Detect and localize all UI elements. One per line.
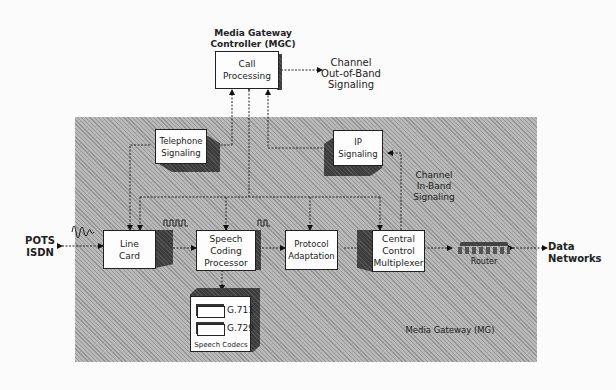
speech-codecs-box: G.711 G.729 Speech Codecs bbox=[190, 296, 251, 352]
in-band-label-1: Channel bbox=[404, 170, 464, 181]
line-card-label: Line Card bbox=[115, 238, 145, 262]
in-band-label-2: In-Band bbox=[404, 181, 464, 192]
central-control-label: Central Control Multiplexer bbox=[373, 233, 424, 269]
line-card-shadow bbox=[155, 230, 173, 268]
router-label: Router bbox=[458, 256, 510, 267]
ip-signaling-label: IP Signaling bbox=[338, 136, 378, 160]
codec-chip-icon bbox=[197, 306, 225, 318]
data-networks-label-2: Networks bbox=[548, 253, 608, 265]
media-gateway-label: Media Gateway (MG) bbox=[395, 325, 505, 336]
out-of-band-label-1: Channel bbox=[316, 57, 386, 68]
speech-coding-box: Speech Coding Processor bbox=[196, 230, 256, 271]
codec-chip-icon bbox=[197, 324, 225, 336]
call-processing-box: Call Processing bbox=[215, 51, 279, 89]
router-icon bbox=[458, 242, 510, 256]
line-card-box: Line Card bbox=[103, 230, 156, 269]
central-control-box: Central Control Multiplexer bbox=[372, 230, 425, 272]
protocol-adaptation-box: Protocol Adaptation bbox=[285, 230, 338, 270]
pots-label: POTS bbox=[18, 235, 62, 247]
central-control-shadow bbox=[357, 230, 373, 272]
out-of-band-label-2: Out-of-Band bbox=[316, 68, 386, 79]
speech-codecs-label: Speech Codecs bbox=[192, 339, 250, 351]
isdn-label: ISDN bbox=[18, 247, 62, 259]
out-of-band-label-3: Signaling bbox=[316, 79, 386, 90]
mgc-title-line2: Controller (MGC) bbox=[208, 38, 298, 50]
in-band-label-3: Signaling bbox=[404, 192, 464, 203]
call-processing-label: Call Processing bbox=[222, 58, 272, 82]
data-networks-label-1: Data bbox=[548, 241, 608, 253]
telephone-signaling-box: Telephone Signaling bbox=[155, 129, 207, 164]
speech-coding-label: Speech Coding Processor bbox=[199, 233, 253, 269]
telephone-signaling-label: Telephone Signaling bbox=[156, 135, 206, 159]
connection-wires bbox=[0, 0, 616, 390]
protocol-adaptation-label: Protocol Adaptation bbox=[286, 238, 337, 262]
codec-g729: G.729 bbox=[227, 322, 254, 334]
codec-g711: G.711 bbox=[227, 304, 254, 316]
ip-signaling-box: IP Signaling bbox=[333, 130, 383, 166]
